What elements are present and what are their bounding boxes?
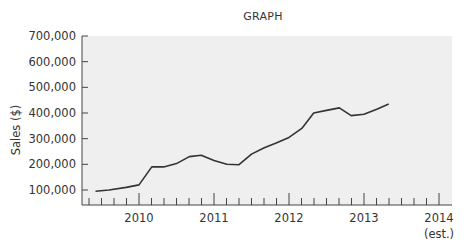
x-tick-note: (est.) <box>424 227 454 241</box>
plot-background <box>82 36 452 205</box>
y-axis-label: Sales ($) <box>9 105 23 156</box>
y-tick-label: 100,000 <box>28 183 76 197</box>
x-tick-label: 2011 <box>199 211 228 225</box>
line-chart: GRAPH 100,000200,000300,000400,000500,00… <box>0 0 470 251</box>
chart-title: GRAPH <box>243 10 283 23</box>
x-tick-label: 2014 <box>424 211 453 225</box>
y-tick-label: 200,000 <box>28 157 76 171</box>
x-tick-label: 2010 <box>124 211 153 225</box>
y-tick-label: 500,000 <box>28 80 76 94</box>
y-tick-label: 700,000 <box>28 29 76 43</box>
y-tick-label: 400,000 <box>28 106 76 120</box>
y-tick-label: 300,000 <box>28 132 76 146</box>
x-tick-label: 2013 <box>349 211 378 225</box>
y-tick-label: 600,000 <box>28 55 76 69</box>
y-axis: 100,000200,000300,000400,000500,000600,0… <box>28 29 88 205</box>
chart-canvas: GRAPH 100,000200,000300,000400,000500,00… <box>0 0 470 251</box>
x-tick-label: 2012 <box>274 211 303 225</box>
